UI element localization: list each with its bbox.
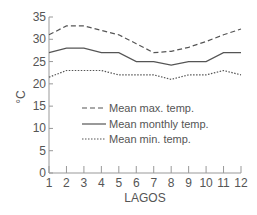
x-tick-label: 5 [115,176,122,190]
series-line-solid [49,48,241,65]
legend-label: Mean monthly temp. [109,118,209,130]
y-tick-label: 15 [33,99,47,113]
x-tick-label: 6 [133,176,140,190]
legend-label: Mean min. temp. [109,133,191,145]
x-tick-label: 9 [185,176,192,190]
temperature-line-chart: 05101520253035123456789101112 Mean max. … [0,0,257,215]
x-tick-label: 8 [168,176,175,190]
x-tick-label: 12 [234,176,248,190]
y-tick-label: 10 [33,121,47,135]
chart-canvas: 05101520253035123456789101112 Mean max. … [0,0,257,215]
y-axis-label: °C [14,90,28,104]
x-tick-label: 2 [63,176,70,190]
x-tick-label: 3 [81,176,88,190]
y-tick-label: 25 [33,55,47,69]
x-tick-label: 10 [199,176,213,190]
x-tick-label: 7 [150,176,157,190]
y-tick-label: 20 [33,77,47,91]
y-tick-label: 35 [33,10,47,24]
y-tick-label: 5 [39,144,46,158]
series-line-dotted [49,71,241,80]
axes: 05101520253035123456789101112 [33,10,248,190]
x-tick-label: 1 [46,176,53,190]
legend: Mean max. temp.Mean monthly temp.Mean mi… [82,102,209,145]
x-tick-label: 11 [217,176,230,190]
data-lines [49,26,241,80]
x-axis-label: LAGOS [124,191,165,205]
legend-label: Mean max. temp. [109,102,194,114]
y-tick-label: 30 [33,32,47,46]
x-tick-label: 4 [98,176,105,190]
